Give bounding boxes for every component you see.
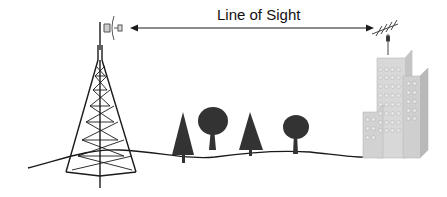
line-of-sight-arrow xyxy=(130,25,374,32)
dish-antenna-icon xyxy=(104,16,122,40)
deciduous-tree-icon xyxy=(198,107,228,150)
ground-line xyxy=(28,150,382,168)
conifer-tree-icon xyxy=(239,112,263,156)
deciduous-tree-icon xyxy=(283,115,309,154)
yagi-antenna-icon xyxy=(372,20,398,55)
building-icon xyxy=(363,50,428,158)
transmission-tower-icon xyxy=(66,22,136,188)
line-of-sight-diagram xyxy=(0,0,447,197)
